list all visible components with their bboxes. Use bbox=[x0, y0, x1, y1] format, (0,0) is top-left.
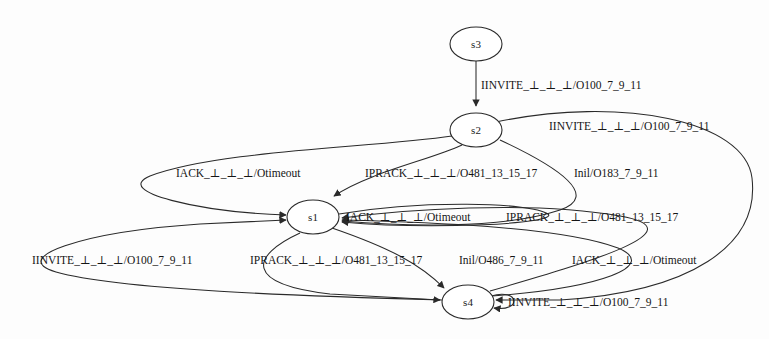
edge-label-iack-low: IACK_⊥_⊥_⊥/Otimeout bbox=[572, 254, 697, 266]
edge-label-inil-183: Inil/O183_7_9_11 bbox=[574, 167, 659, 179]
edge-label-s4-self: IINVITE_⊥_⊥_⊥/O100_7_9_11 bbox=[508, 296, 669, 308]
edge-s1-to-s4-iprack-low bbox=[264, 233, 440, 300]
edge-labels-layer: IINVITE_⊥_⊥_⊥/O100_7_9_11 IINVITE_⊥_⊥_⊥/… bbox=[32, 79, 710, 308]
edge-label-iprack-mid: IPRACK_⊥_⊥_⊥/O481_13_15_17 bbox=[506, 211, 679, 223]
edge-label-inil-486: Inil/O486_7_9_11 bbox=[459, 254, 544, 266]
edge-label-iack-upper: IACK_⊥_⊥_⊥/Otimeout bbox=[176, 167, 301, 179]
fsm-diagram-canvas: s3 s2 s1 s4 IINVITE_⊥_⊥_⊥/O100_7_9_11 II… bbox=[0, 0, 769, 339]
edge-label-s3-s2: IINVITE_⊥_⊥_⊥/O100_7_9_11 bbox=[481, 79, 642, 91]
edge-s2-loop-right bbox=[496, 112, 753, 300]
edges-layer bbox=[41, 61, 753, 308]
edge-label-iprack-low: IPRACK_⊥_⊥_⊥/O481_13_15_17 bbox=[250, 254, 423, 266]
edge-label-s2-self-top: IINVITE_⊥_⊥_⊥/O100_7_9_11 bbox=[549, 120, 710, 132]
state-label-s2: s2 bbox=[471, 124, 481, 136]
state-label-s1: s1 bbox=[308, 211, 318, 223]
edge-label-iinvite-low: IINVITE_⊥_⊥_⊥/O100_7_9_11 bbox=[32, 254, 193, 266]
state-label-s4: s4 bbox=[463, 296, 473, 308]
fsm-svg: s3 s2 s1 s4 IINVITE_⊥_⊥_⊥/O100_7_9_11 II… bbox=[0, 0, 769, 339]
edge-label-iprack-upper: IPRACK_⊥_⊥_⊥/O481_13_15_17 bbox=[365, 167, 538, 179]
edge-label-iack-mid: IACK_⊥_⊥_⊥/Otimeout bbox=[346, 211, 471, 223]
state-label-s3: s3 bbox=[471, 38, 481, 50]
